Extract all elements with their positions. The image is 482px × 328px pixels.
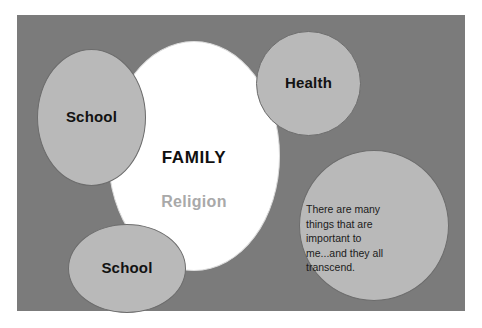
- bubble-health-label: Health: [285, 75, 332, 92]
- bubble-school-bottom-label: School: [101, 260, 152, 277]
- bubble-health[interactable]: Health: [256, 31, 361, 136]
- bubble-school-top-label: School: [66, 109, 117, 126]
- center-bubble-primary-label: FAMILY: [162, 148, 226, 168]
- center-bubble-secondary-label: Religion: [161, 193, 227, 211]
- bubble-quote[interactable]: There are many things that are important…: [299, 150, 449, 301]
- diagram-canvas: FAMILY Religion School Health School The…: [0, 0, 482, 328]
- bubble-school-bottom[interactable]: School: [68, 224, 186, 313]
- bubble-quote-label: There are many things that are important…: [306, 202, 402, 274]
- bubble-school-top[interactable]: School: [37, 49, 146, 186]
